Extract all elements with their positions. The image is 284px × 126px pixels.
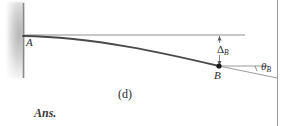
label-deflection-delta-b: ΔB bbox=[217, 44, 229, 56]
figure-caption: (d) bbox=[0, 87, 250, 102]
point-b-marker bbox=[216, 63, 221, 68]
label-point-a: A bbox=[26, 37, 33, 48]
figure-panel: A B ΔB θB (d) Ans. bbox=[0, 0, 284, 126]
label-slope-theta-b: θB bbox=[261, 61, 271, 73]
deflection-arrowhead-up bbox=[218, 36, 222, 41]
page-right-border bbox=[277, 0, 278, 126]
label-point-b-text: B bbox=[214, 69, 221, 81]
answer-note: Ans. bbox=[34, 106, 56, 121]
label-point-b: B bbox=[214, 70, 221, 81]
theta-angle-tick bbox=[255, 66, 257, 71]
slope-subscript: B bbox=[266, 65, 271, 74]
label-point-a-text: A bbox=[26, 36, 33, 48]
deflection-subscript: B bbox=[224, 48, 229, 57]
elastic-curve bbox=[23, 36, 219, 66]
